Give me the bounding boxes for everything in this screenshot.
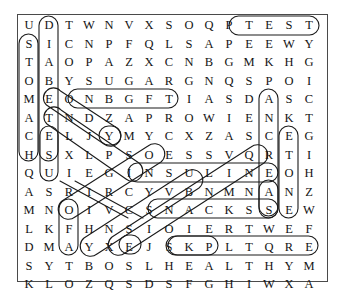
mark-pancreas — [259, 89, 278, 216]
mark-sugar — [68, 89, 178, 108]
mark-sugars-diagonal — [80, 170, 203, 257]
mark-healthy — [168, 236, 318, 255]
mark-ketones — [279, 126, 298, 218]
mark-he-oval — [166, 236, 218, 255]
mark-test — [229, 16, 319, 35]
mark-y-oval — [99, 126, 121, 145]
word-search-puzzle: UDTWNVXSOQPTESTSICNPFQLSAPEEWYTAOPAZXCNB… — [0, 0, 345, 296]
found-word-markings — [0, 0, 345, 296]
mark-body — [43, 88, 120, 146]
mark-stomach — [19, 34, 38, 161]
mark-diagonal-short-b — [75, 181, 143, 218]
mark-exercise — [108, 145, 268, 256]
mark-vertical-short-col1 — [40, 126, 58, 181]
mark-fat — [59, 199, 78, 255]
